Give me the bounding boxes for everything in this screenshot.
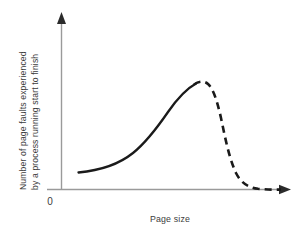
y-axis-label-line2: by a process running start to finish	[30, 54, 40, 190]
curve-solid-segment	[79, 84, 197, 173]
y-axis-arrow-icon	[57, 12, 66, 24]
chart-figure: 0 Page size Number of page faults experi…	[0, 0, 298, 237]
x-axis-label: Page size	[150, 214, 190, 224]
curve-dashed-segment	[194, 82, 281, 190]
origin-label: 0	[47, 196, 53, 207]
page-fault-curve-chart: 0 Page size Number of page faults experi…	[0, 0, 298, 237]
y-axis-label-line1: Number of page faults experienced	[18, 51, 28, 190]
